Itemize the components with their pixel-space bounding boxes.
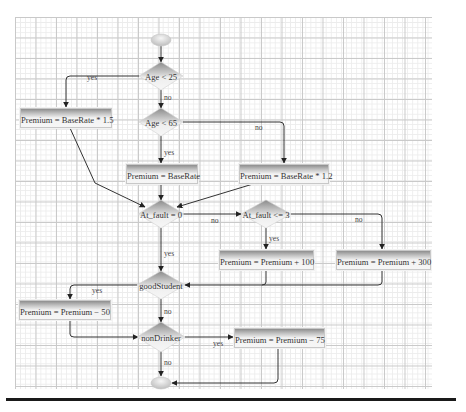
edge-age25-yes xyxy=(66,76,139,107)
start-terminator xyxy=(151,34,171,46)
edge-1_2-fault0 xyxy=(177,184,253,207)
decision-label-non-drinker: nonDrinker xyxy=(141,333,181,343)
edge-label-student-yes: yes xyxy=(92,286,102,295)
decision-label-at-fault-0: At_fault = 0 xyxy=(140,210,182,220)
process-premium-baserate-1-2: Premium = BaseRate * 1.2 xyxy=(239,164,329,184)
edge-minus50-drinker xyxy=(70,320,138,337)
edge-label-student-no: no xyxy=(164,307,172,316)
edge-label-fault3-yes: yes xyxy=(269,234,279,243)
decision-label-at-fault-le-3: At_fault <= 3 xyxy=(243,210,290,220)
connectors xyxy=(66,46,382,383)
edge-age65-no xyxy=(183,122,284,163)
edge-label-age65-no: no xyxy=(255,123,263,132)
edge-merge-goodstudent xyxy=(185,270,382,285)
edge-label-age25-no: no xyxy=(164,93,172,102)
end-terminator xyxy=(151,377,171,389)
edge-label-drinker-yes: yes xyxy=(213,339,223,348)
decision-label-age-lt-65: Age < 65 xyxy=(145,118,177,128)
edge-fault3-no xyxy=(291,214,382,249)
process-premium-minus-75: Premium = Premium − 75 xyxy=(234,328,325,348)
flowchart-canvas: Age < 25 Age < 65 At_fault = 0 At_fault … xyxy=(0,0,466,412)
edge-label-age25-yes: yes xyxy=(87,73,97,82)
bottom-rule-divider xyxy=(6,398,456,401)
decision-label-age-lt-25: Age < 25 xyxy=(145,72,177,82)
process-premium-minus-50: Premium = Premium − 50 xyxy=(19,300,111,320)
process-premium-baserate: Premium = BaseRate xyxy=(126,164,198,184)
process-premium-plus-300: Premium = Premium + 300 xyxy=(336,250,431,270)
decision-label-good-student: goodStudent xyxy=(139,281,182,291)
edge-label-drinker-no: no xyxy=(164,358,172,367)
flowchart-shapes xyxy=(0,0,466,412)
edge-label-age65-yes: yes xyxy=(164,148,174,157)
edge-label-fault0-yes: yes xyxy=(164,249,174,258)
edge-plus100-merge xyxy=(262,270,266,285)
edge-student-yes xyxy=(70,285,137,299)
process-premium-plus-100: Premium = Premium + 100 xyxy=(219,250,314,270)
process-premium-baserate-1-5: Premium = BaseRate * 1.5 xyxy=(20,108,112,128)
edge-label-fault0-no: no xyxy=(211,216,219,225)
edge-minus75-end xyxy=(172,348,278,383)
edge-label-fault3-no: no xyxy=(355,215,363,224)
